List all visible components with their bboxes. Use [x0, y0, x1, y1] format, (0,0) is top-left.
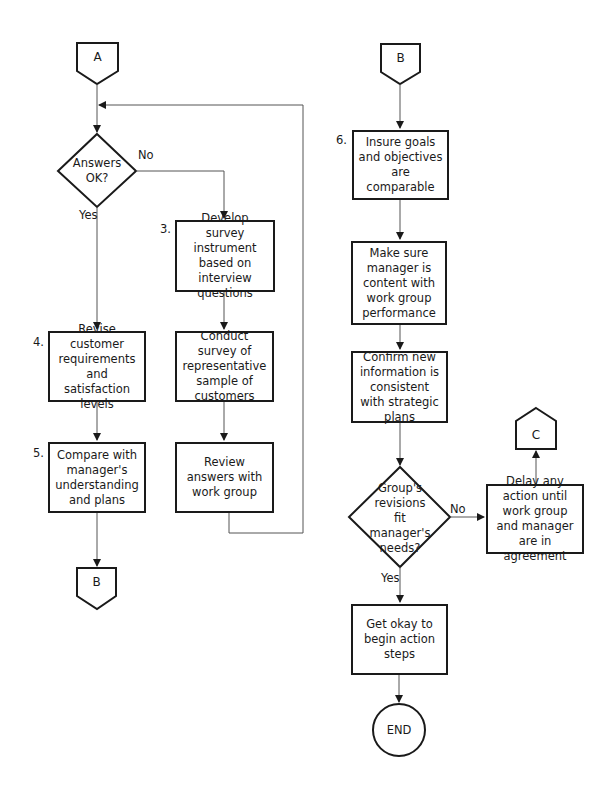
end-terminal-label: END	[373, 720, 425, 740]
confirm-info-box: Confirm new information is consistent wi…	[351, 351, 448, 423]
step-3-number: 3.	[160, 222, 171, 236]
connector-b-bottom-label: B	[77, 571, 116, 593]
connector-b-top-label: B	[381, 47, 420, 69]
connector-a-label: A	[77, 46, 118, 68]
decision-answers-ok-no-label: No	[138, 148, 154, 162]
step-6-box: Insure goals and objectives are comparab…	[352, 130, 449, 200]
step-5-box: Compare with manager's understanding and…	[48, 442, 146, 513]
conduct-survey-box: Conduct survey of representative sample …	[175, 331, 274, 402]
connector-c-label: C	[516, 424, 556, 446]
step-3-box: Develop survey instrument based on inter…	[175, 220, 275, 292]
get-okay-box: Get okay to begin action steps	[351, 604, 448, 675]
step-6-number: 6.	[336, 133, 347, 147]
step-5-number: 5.	[33, 446, 44, 460]
decision-answers-ok-yes-label: Yes	[79, 208, 98, 222]
decision-revisions-fit-no-label: No	[450, 502, 466, 516]
flowchart-canvas: A B B C END Answers OK? No Yes 4. Revise…	[0, 0, 615, 803]
review-answers-box: Review answers with work group	[175, 442, 274, 513]
delay-action-box: Delay any action until work group and ma…	[486, 484, 584, 554]
manager-content-box: Make sure manager is content with work g…	[351, 241, 447, 325]
decision-revisions-fit-label: Group's revisions fit manager's needs?	[368, 487, 432, 549]
step-4-box: Revise customer requirements and satisfa…	[48, 331, 146, 402]
decision-answers-ok-label: Answers OK?	[70, 155, 124, 187]
step-4-number: 4.	[33, 335, 44, 349]
decision-revisions-fit-yes-label: Yes	[381, 571, 400, 585]
